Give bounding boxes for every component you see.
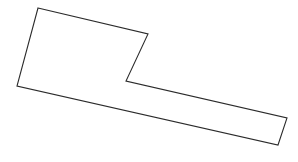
- drawing-canvas: [0, 0, 298, 162]
- shape-canvas-svg: [0, 0, 298, 162]
- l-shaped-polygon-outline: [17, 8, 287, 145]
